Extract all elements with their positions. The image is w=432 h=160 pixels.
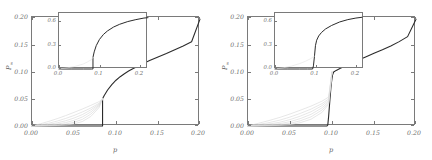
panel-b-ytick-3 <box>248 45 251 46</box>
panel-a-inset-xtick-1 <box>100 65 101 67</box>
panel-b-inset-axes <box>274 12 363 68</box>
panel-a-ytick-2 <box>32 72 35 73</box>
panel-a-yticklabel-3: 0.15 <box>8 40 28 47</box>
series-finite-size-N5 <box>248 72 332 126</box>
panel-b-xtick-2 <box>332 121 333 124</box>
panel-b-xtick-1 <box>290 121 291 124</box>
panel-b-yticklabel-1: 0.05 <box>224 95 244 102</box>
panel-a-xtick-4 <box>199 121 200 124</box>
panel-a-xtick-3 <box>158 121 159 124</box>
panel-a-ytick-right-2 <box>195 72 198 73</box>
panel-b-inset-yticklabel-1: 0.3 <box>256 41 272 47</box>
panel-a-ytick-4 <box>32 17 35 18</box>
figure-root: P∞ p 0. <box>0 0 432 160</box>
series-finite-size-N2 <box>248 72 332 126</box>
panel-a-xticklabel-1: 0.05 <box>66 129 80 136</box>
panel-a-inset-yticklabel-2: 0.6 <box>40 17 56 23</box>
panel-a-xtick-top-3 <box>158 17 159 20</box>
series-thermodynamic-limit <box>59 18 148 69</box>
panel-a-inset-ytick-2 <box>59 21 61 22</box>
panel-b: P∞ p 0.00 0.05 0.1 <box>216 0 432 160</box>
panel-b-xticklabel-4: 0.20 <box>407 129 421 136</box>
panel-a-xticklabel-2: 0.10 <box>108 129 122 136</box>
panel-a-x-axis-title: p <box>113 146 117 154</box>
panel-b-inset-xtick-0 <box>275 65 276 67</box>
panel-b-ytick-right-1 <box>411 99 414 100</box>
panel-a-ytick-0 <box>32 125 35 126</box>
panel-b-inset-xticklabel-2: 0.2 <box>351 70 360 76</box>
panel-b-xtick-3 <box>374 121 375 124</box>
panel-b-yticklabel-4: 0.20 <box>224 13 244 20</box>
series-thermodynamic-limit <box>275 17 362 69</box>
panel-a-inset-plot-area <box>59 13 148 69</box>
panel-a-inset-xtick-0 <box>59 65 60 67</box>
panel-b-inset-xtick-2 <box>356 65 357 67</box>
panel-b-inset-ytick-1 <box>275 45 277 46</box>
panel-b-xtick-top-4 <box>415 17 416 20</box>
series-finite-size-family <box>59 57 93 69</box>
panel-b-ytick-right-0 <box>411 125 414 126</box>
panel-b-inset-xtick-1 <box>316 65 317 67</box>
panel-a-xtick-2 <box>116 121 117 124</box>
series-finite-size-family <box>275 56 314 69</box>
panel-b-x-axis-title: p <box>329 146 333 154</box>
panel-b-ytick-4 <box>248 17 251 18</box>
panel-a: P∞ p 0. <box>0 0 216 160</box>
series-finite-size-N1 <box>248 72 332 126</box>
panel-b-inset-xticklabel-0: 0.0 <box>270 70 279 76</box>
series-finite-size-N3 <box>248 72 332 126</box>
panel-a-xticklabel-3: 0.15 <box>150 129 164 136</box>
panel-b-xticklabel-1: 0.05 <box>282 129 296 136</box>
panel-a-xticklabel-4: 0.20 <box>191 129 205 136</box>
panel-a-xtick-top-4 <box>199 17 200 20</box>
series-finite-size-N4 <box>32 99 103 126</box>
panel-a-inset-xticklabel-0: 0.0 <box>54 70 63 76</box>
panel-a-xtick-0 <box>32 121 33 124</box>
panel-b-yticklabel-0: 0.00 <box>224 122 244 129</box>
panel-b-inset-xticklabel-1: 0.1 <box>310 70 319 76</box>
panel-a-inset-axes <box>58 12 147 68</box>
panel-a-inset-yticklabel-0: 0.0 <box>40 64 56 70</box>
panel-b-xticklabel-0: 0.00 <box>240 129 254 136</box>
panel-b-inset-yticklabel-2: 0.6 <box>256 17 272 23</box>
series-finite-size-N6 <box>248 72 332 126</box>
panel-a-ytick-right-3 <box>195 45 198 46</box>
panel-b-ytick-right-4 <box>411 17 414 18</box>
panel-a-ytick-right-4 <box>195 17 198 18</box>
panel-a-inset-ytick-0 <box>59 68 61 69</box>
panel-a-inset-ytick-1 <box>59 45 61 46</box>
panel-b-ytick-right-2 <box>411 72 414 73</box>
panel-a-yticklabel-4: 0.20 <box>8 13 28 20</box>
panel-b-ytick-1 <box>248 99 251 100</box>
panel-a-xtick-1 <box>74 121 75 124</box>
series-finite-size-N4 <box>248 72 332 126</box>
panel-a-inset-xtick-2 <box>140 65 141 67</box>
panel-b-inset-ytick-2 <box>275 21 277 22</box>
panel-b-inset-plot-area <box>275 13 364 69</box>
panel-a-ytick-right-0 <box>195 125 198 126</box>
panel-b-xticklabel-2: 0.10 <box>324 129 338 136</box>
panel-b-yticklabel-2: 0.10 <box>224 67 244 74</box>
panel-a-inset-xticklabel-2: 0.2 <box>135 70 144 76</box>
panel-a-yticklabel-0: 0.00 <box>8 122 28 129</box>
panel-b-inset-yticklabel-0: 0.0 <box>256 64 272 70</box>
panel-a-inset-xticklabel-1: 0.1 <box>94 70 103 76</box>
panel-a-xticklabel-0: 0.00 <box>24 129 38 136</box>
panel-a-ytick-right-1 <box>195 99 198 100</box>
panel-b-xtick-4 <box>415 121 416 124</box>
panel-b-yticklabel-3: 0.15 <box>224 40 244 47</box>
panel-b-xticklabel-3: 0.15 <box>366 129 380 136</box>
panel-b-ytick-2 <box>248 72 251 73</box>
panel-a-inset-yticklabel-1: 0.3 <box>40 41 56 47</box>
panel-a-yticklabel-2: 0.10 <box>8 67 28 74</box>
panel-b-ytick-right-3 <box>411 45 414 46</box>
panel-a-ytick-1 <box>32 99 35 100</box>
panel-b-ytick-0 <box>248 125 251 126</box>
panel-a-ytick-3 <box>32 45 35 46</box>
panel-b-xtick-0 <box>248 121 249 124</box>
panel-a-yticklabel-1: 0.05 <box>8 95 28 102</box>
panel-b-inset-ytick-0 <box>275 68 277 69</box>
panel-b-xtick-top-3 <box>374 17 375 20</box>
